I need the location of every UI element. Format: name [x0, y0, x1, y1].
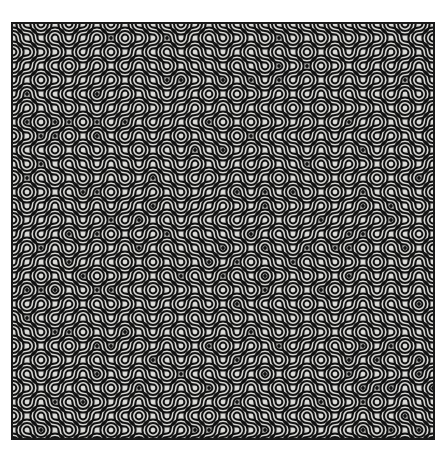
truchet-pattern-canvas: [13, 24, 433, 438]
artboard: [0, 0, 447, 460]
truchet-pattern-frame: [11, 22, 435, 440]
